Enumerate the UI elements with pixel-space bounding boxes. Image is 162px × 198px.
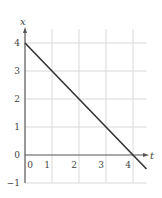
y-tick-label: 1	[14, 122, 20, 132]
x-axis-label: t	[150, 150, 155, 161]
y-tick-label: 0	[14, 150, 20, 160]
y-tick-label: −1	[7, 178, 20, 188]
data-line	[25, 43, 147, 169]
x-tick-label: 1	[44, 160, 50, 170]
y-tick-label: 2	[14, 94, 20, 104]
data-series	[25, 43, 147, 169]
y-tick-label: 3	[14, 66, 20, 76]
x-tick-label: 4	[125, 160, 131, 170]
x-tick-label: 0	[27, 160, 33, 170]
position-time-chart: 43210−101234 x t	[0, 0, 162, 198]
y-tick-label: 4	[14, 38, 20, 48]
y-axis-label: x	[20, 16, 26, 27]
x-tick-label: 3	[98, 160, 104, 170]
x-tick-label: 2	[71, 160, 77, 170]
y-axis-arrow-icon	[23, 27, 27, 33]
t-axis-arrow-icon	[143, 153, 149, 157]
